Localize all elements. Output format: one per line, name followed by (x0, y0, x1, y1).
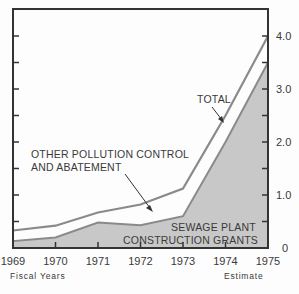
y-tick-label: 4.0 (276, 30, 291, 42)
other-label-line1: OTHER POLLUTION CONTROL (31, 148, 189, 160)
y-tick-labels: 01.02.03.04.0 (276, 30, 291, 254)
sewage-label-line1: SEWAGE PLANT (171, 221, 256, 233)
x-tick-label: 1971 (86, 255, 110, 267)
x-tick-labels: 1969197019711972197319741975 (1, 255, 280, 267)
y-tick-label: 0 (282, 242, 288, 254)
x-axis-title: Fiscal Years (10, 271, 65, 281)
other-label-line2: AND ABATEMENT (31, 161, 122, 173)
sewage-label-line2: CONSTRUCTION GRANTS (123, 234, 258, 246)
y-tick-label: 3.0 (276, 83, 291, 95)
x-tick-label: 1974 (213, 255, 237, 267)
y-tick-label: 2.0 (276, 136, 291, 148)
x-tick-label: 1975 (256, 255, 280, 267)
x-tick-label: 1973 (171, 255, 195, 267)
y-tick-label: 1.0 (276, 189, 291, 201)
estimate-note: Estimate (224, 271, 263, 281)
x-tick-label: 1970 (43, 255, 67, 267)
other-arrow (125, 174, 150, 208)
x-tick-label: 1972 (128, 255, 152, 267)
x-tick-label: 1969 (1, 255, 25, 267)
other-arrowhead (146, 205, 153, 212)
pollution-spending-chart: 01.02.03.04.0 19691970197119721973197419… (0, 0, 299, 294)
total-label: TOTAL (197, 93, 231, 105)
